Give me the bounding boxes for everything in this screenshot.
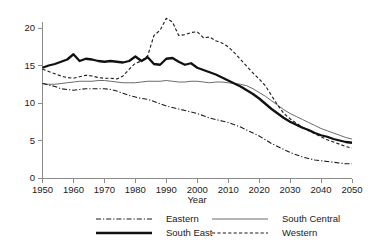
x-tick-label-1970: 1970	[94, 184, 115, 195]
legend-label-south-east[interactable]: South East	[166, 227, 213, 238]
x-tick-label-1980: 1980	[125, 184, 146, 195]
line-chart: 05101520 1950196019701980199020002010202…	[0, 0, 368, 244]
y-tick-label-15: 15	[24, 60, 35, 71]
legend-label-eastern[interactable]: Eastern	[166, 213, 199, 224]
y-axis-ticks: 05101520	[24, 22, 42, 183]
x-tick-label-2020: 2020	[249, 184, 270, 195]
y-tick-label-20: 20	[24, 22, 35, 33]
x-tick-label-2050: 2050	[341, 184, 362, 195]
x-tick-label-2010: 2010	[218, 184, 239, 195]
data-series-group	[43, 18, 353, 164]
series-line-eastern	[43, 84, 353, 164]
legend-label-south-central[interactable]: South Central	[282, 213, 340, 224]
x-axis-ticks: 1950196019701980199020002010202020302040…	[32, 179, 363, 196]
y-tick-label-10: 10	[24, 97, 35, 108]
x-tick-label-1990: 1990	[156, 184, 177, 195]
x-tick-label-1950: 1950	[32, 184, 53, 195]
chart-canvas: 05101520 1950196019701980199020002010202…	[0, 0, 368, 244]
y-tick-label-0: 0	[30, 172, 35, 183]
x-tick-label-1960: 1960	[63, 184, 84, 195]
chart-legend: EasternSouth CentralSouth EastWestern	[96, 213, 340, 238]
y-tick-label-5: 5	[30, 135, 35, 146]
x-axis-title: Year	[187, 194, 206, 205]
legend-label-western[interactable]: Western	[282, 227, 317, 238]
series-line-south-east	[43, 54, 353, 143]
x-tick-label-2030: 2030	[280, 184, 301, 195]
series-line-south-central	[43, 81, 353, 140]
axes-group	[43, 22, 353, 179]
x-tick-label-2040: 2040	[310, 184, 331, 195]
